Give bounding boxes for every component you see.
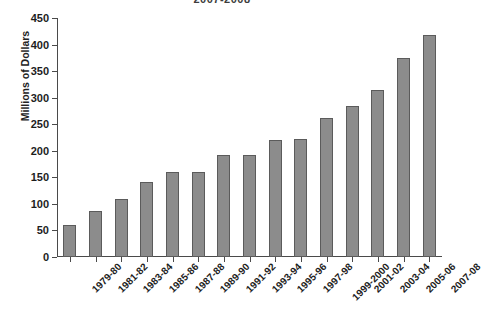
bar xyxy=(294,139,307,257)
y-tick-label: 150 xyxy=(31,171,49,183)
plot-area: 050100150200250300350400450 xyxy=(57,18,442,257)
bar-series xyxy=(57,18,442,257)
y-tick-label: 400 xyxy=(31,39,49,51)
bar xyxy=(140,182,153,257)
bar xyxy=(371,90,384,257)
bar xyxy=(166,172,179,257)
chart-title: 2007-2008 xyxy=(0,0,444,5)
bar xyxy=(397,58,410,257)
y-tick-label: 300 xyxy=(31,92,49,104)
bar xyxy=(346,106,359,257)
y-tick-label: 450 xyxy=(31,12,49,24)
y-axis-title: Millions of Dollars xyxy=(19,11,31,141)
bar xyxy=(320,118,333,257)
bar xyxy=(217,155,230,257)
x-axis-labels: 1979-801981-821983-841985-861987-881989-… xyxy=(57,261,442,316)
bar xyxy=(243,155,256,257)
y-tick-mark xyxy=(52,257,57,258)
y-tick-label: 100 xyxy=(31,198,49,210)
bar xyxy=(115,199,128,257)
y-tick-label: 50 xyxy=(37,224,49,236)
y-tick-label: 0 xyxy=(43,251,49,263)
bar xyxy=(63,225,76,257)
y-tick-label: 250 xyxy=(31,118,49,130)
y-tick-label: 350 xyxy=(31,65,49,77)
y-tick-label: 200 xyxy=(31,145,49,157)
bar xyxy=(192,172,205,257)
bar xyxy=(269,140,282,257)
bar xyxy=(89,211,102,257)
bar xyxy=(423,35,436,257)
